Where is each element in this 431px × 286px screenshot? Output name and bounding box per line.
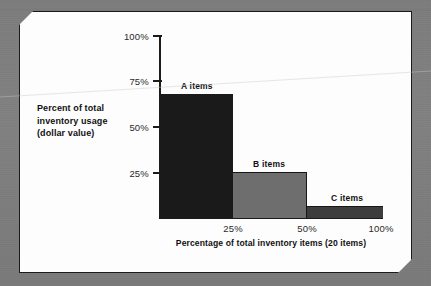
bar-label-c-items: C items	[331, 193, 363, 203]
bar-c-items	[307, 206, 383, 218]
bar-b-items	[233, 172, 307, 218]
x-tick-label-25: 25%	[223, 223, 243, 234]
x-tick-label-100: 100%	[368, 223, 393, 234]
plot-region: 100% 75% 50% 25% A items B items C items…	[159, 35, 383, 218]
x-tick-label-50: 50%	[297, 223, 317, 234]
bar-label-b-items: B items	[253, 159, 285, 169]
scanned-page: Percent of total inventory usage (dollar…	[0, 0, 431, 286]
chart-area: Percent of total inventory usage (dollar…	[19, 11, 412, 273]
y-tick-label-25: 25%	[129, 168, 149, 179]
y-tick-label-100: 100%	[124, 31, 149, 42]
y-tick-label-50: 50%	[129, 122, 149, 133]
bar-label-a-items: A items	[181, 81, 213, 91]
y-tick-label-75: 75%	[129, 76, 149, 87]
bar-a-items	[161, 94, 233, 218]
y-axis-title-line-1: Percent of total	[37, 102, 145, 115]
y-tick-75	[153, 80, 162, 82]
x-axis-title: Percentage of total inventory items (20 …	[159, 238, 383, 248]
y-tick-100	[153, 35, 162, 37]
